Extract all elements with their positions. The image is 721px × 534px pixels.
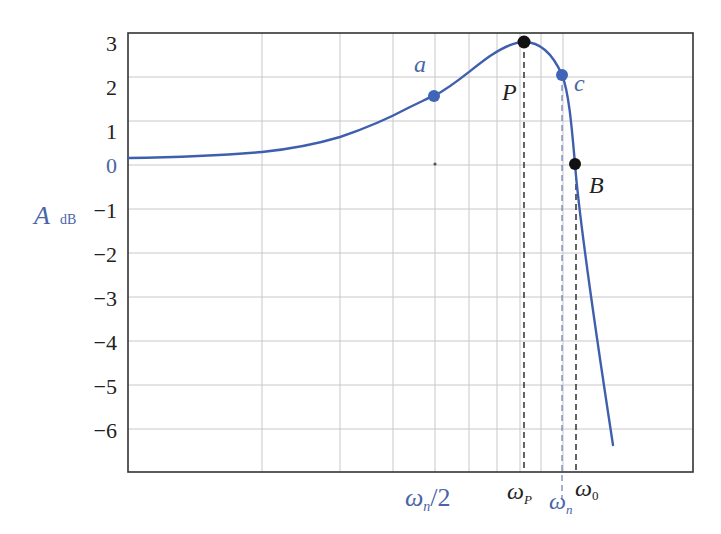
marker-label-a: a [414, 51, 426, 77]
ytick-neg2: −2 [94, 242, 117, 267]
ytick-neg3: −3 [94, 286, 117, 311]
reference-dot [433, 162, 436, 165]
grid-horizontal [128, 77, 693, 429]
y-axis-ticks: 3 2 1 0 −1 −2 −3 −4 −5 −6 [94, 31, 117, 443]
ytick-2: 2 [106, 75, 117, 100]
marker-a [428, 90, 440, 102]
marker-p [518, 36, 531, 49]
ytick-neg4: −4 [94, 330, 117, 355]
ytick-neg6: −6 [94, 418, 117, 443]
marker-label-c: c [574, 70, 585, 96]
x-label-omega-p: ωP [507, 478, 532, 507]
ytick-neg5: −5 [94, 374, 117, 399]
x-label-omega-0: ω0 [575, 475, 598, 503]
marker-label-b: B [589, 172, 604, 198]
y-axis-label: A dB [32, 201, 76, 230]
marker-b [569, 158, 581, 170]
ytick-0: 0 [106, 153, 117, 178]
marker-c [556, 69, 568, 81]
guide-lines [524, 42, 576, 500]
ytick-neg1: −1 [94, 198, 117, 223]
ytick-1: 1 [106, 119, 117, 144]
chart: a P c B 3 2 1 0 −1 −2 −3 −4 −5 −6 A dB ω… [0, 0, 721, 534]
x-label-omega-n-half: ωn/2 [405, 483, 451, 514]
marker-label-p: P [501, 79, 517, 105]
x-label-omega-n: ωn [549, 488, 572, 517]
ytick-3: 3 [106, 31, 117, 56]
